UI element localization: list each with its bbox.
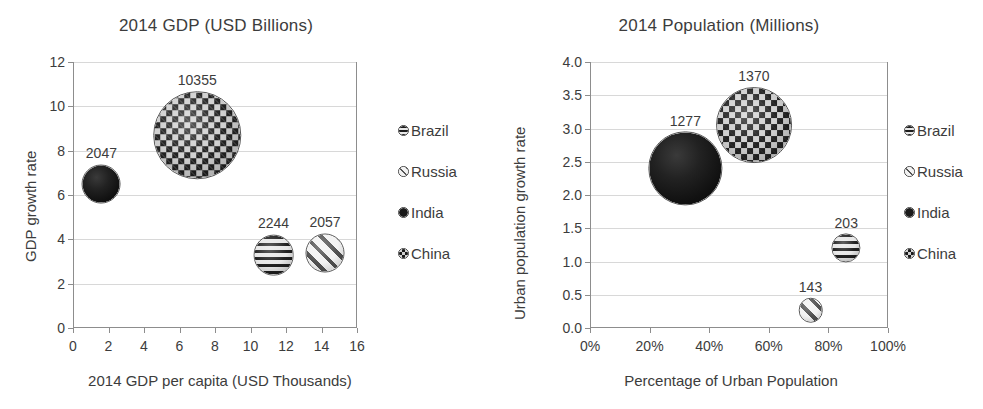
y-axis-tick-mark bbox=[68, 106, 73, 107]
legend-item-russia[interactable]: Russia bbox=[398, 163, 457, 180]
bubble-value-label-russia: 143 bbox=[799, 279, 822, 295]
y-axis-tick-mark bbox=[585, 295, 590, 296]
legend-marker-solid-icon bbox=[398, 207, 409, 218]
x-axis-tick-label: 8 bbox=[211, 338, 219, 354]
x-axis-tick-mark bbox=[73, 328, 74, 333]
x-axis-tick-label: 20% bbox=[636, 338, 664, 354]
legend-marker-hstripe-icon bbox=[398, 125, 409, 136]
bubble-russia[interactable] bbox=[306, 233, 345, 272]
bubble-charts-figure: 2014 GDP (USD Billions) 0246810120246810… bbox=[0, 0, 983, 409]
y-axis-tick-mark bbox=[585, 262, 590, 263]
x-axis-tick-label: 40% bbox=[695, 338, 723, 354]
x-axis-tick-label: 100% bbox=[870, 338, 906, 354]
x-axis-tick-mark bbox=[709, 328, 710, 333]
bubble-china[interactable] bbox=[154, 91, 242, 179]
x-axis-title: 2014 GDP per capita (USD Thousands) bbox=[0, 372, 440, 389]
y-axis-tick-label: 0.0 bbox=[491, 320, 582, 336]
legend-label: Brazil bbox=[411, 122, 449, 139]
legend-item-china[interactable]: China bbox=[398, 245, 450, 262]
y-axis-tick-label: 2 bbox=[0, 276, 65, 292]
legend-marker-solid-icon bbox=[904, 207, 915, 218]
y-axis-tick-mark bbox=[585, 228, 590, 229]
y-axis-tick-mark bbox=[585, 95, 590, 96]
y-axis-tick-label: 2.0 bbox=[491, 187, 582, 203]
legend-marker-check-icon bbox=[398, 248, 409, 259]
x-axis-tick-mark bbox=[322, 328, 323, 333]
legend-item-india[interactable]: India bbox=[398, 204, 444, 221]
gridline bbox=[591, 162, 887, 163]
legend-marker-dstripe-icon bbox=[398, 166, 409, 177]
chart-panel-gdp: 2014 GDP (USD Billions) 0246810120246810… bbox=[0, 0, 492, 409]
gridline bbox=[591, 295, 887, 296]
gridline bbox=[74, 62, 356, 63]
x-axis-tick-label: 60% bbox=[755, 338, 783, 354]
y-axis-tick-mark bbox=[68, 195, 73, 196]
y-axis-tick-label: 12 bbox=[0, 54, 65, 70]
x-axis-title: Percentage of Urban Population bbox=[511, 372, 951, 389]
legend-label: China bbox=[411, 245, 450, 262]
legend-label: China bbox=[917, 245, 956, 262]
x-axis-tick-label: 6 bbox=[176, 338, 184, 354]
chart-title-population: 2014 Population (Millions) bbox=[473, 16, 965, 36]
legend-item-china[interactable]: China bbox=[904, 245, 956, 262]
bubble-fill bbox=[650, 133, 721, 204]
y-axis-tick-label: 3.0 bbox=[491, 121, 582, 137]
bubble-russia[interactable] bbox=[798, 298, 823, 323]
bubble-china[interactable] bbox=[716, 87, 792, 163]
chart-panel-population: 2014 Population (Millions) 0.00.51.01.52… bbox=[491, 0, 983, 409]
y-axis-title: GDP growth rate bbox=[22, 151, 39, 262]
legend-label: Brazil bbox=[917, 122, 955, 139]
y-axis-tick-label: 10 bbox=[0, 98, 65, 114]
y-axis-tick-mark bbox=[68, 284, 73, 285]
y-axis-tick-label: 0 bbox=[0, 320, 65, 336]
x-axis-tick-label: 12 bbox=[278, 338, 294, 354]
legend-item-russia[interactable]: Russia bbox=[904, 163, 963, 180]
y-axis-tick-mark bbox=[585, 129, 590, 130]
x-axis-tick-mark bbox=[888, 328, 889, 333]
bubble-shading bbox=[833, 235, 860, 262]
y-axis-tick-label: 1.0 bbox=[491, 254, 582, 270]
x-axis-tick-mark bbox=[286, 328, 287, 333]
x-axis-tick-mark bbox=[650, 328, 651, 333]
chart-title-gdp: 2014 GDP (USD Billions) bbox=[0, 16, 462, 36]
x-axis-tick-label: 4 bbox=[140, 338, 148, 354]
x-axis-tick-label: 16 bbox=[349, 338, 365, 354]
bubble-brazil[interactable] bbox=[253, 234, 294, 275]
legend-label: Russia bbox=[917, 163, 963, 180]
bubble-shading bbox=[799, 299, 822, 322]
bubble-value-label-brazil: 203 bbox=[835, 215, 858, 231]
bubble-india[interactable] bbox=[649, 132, 722, 205]
gridline bbox=[74, 284, 356, 285]
bubble-fill bbox=[83, 165, 120, 202]
x-axis-tick-mark bbox=[251, 328, 252, 333]
y-axis-tick-mark bbox=[585, 195, 590, 196]
x-axis-tick-mark bbox=[769, 328, 770, 333]
gridline bbox=[591, 195, 887, 196]
y-axis-title: Urban population growth rate bbox=[511, 127, 528, 320]
legend-marker-dstripe-icon bbox=[904, 166, 915, 177]
legend-item-brazil[interactable]: Brazil bbox=[904, 122, 955, 139]
legend-label: India bbox=[411, 204, 444, 221]
y-axis-tick-label: 4.0 bbox=[491, 54, 582, 70]
y-axis-tick-label: 3.5 bbox=[491, 87, 582, 103]
x-axis-tick-mark bbox=[180, 328, 181, 333]
x-axis-tick-mark bbox=[828, 328, 829, 333]
x-axis-tick-mark bbox=[109, 328, 110, 333]
legend-marker-check-icon bbox=[904, 248, 915, 259]
y-axis-tick-mark bbox=[585, 62, 590, 63]
bubble-india[interactable] bbox=[82, 164, 121, 203]
x-axis-tick-label: 0% bbox=[580, 338, 600, 354]
bubble-value-label-china: 1370 bbox=[738, 68, 769, 84]
y-axis-tick-label: 2.5 bbox=[491, 154, 582, 170]
x-axis-tick-mark bbox=[215, 328, 216, 333]
x-axis-tick-label: 80% bbox=[814, 338, 842, 354]
legend-item-brazil[interactable]: Brazil bbox=[398, 122, 449, 139]
bubble-shading bbox=[307, 234, 344, 271]
x-axis-tick-label: 10 bbox=[243, 338, 259, 354]
y-axis-tick-mark bbox=[585, 162, 590, 163]
y-axis-tick-mark bbox=[68, 239, 73, 240]
legend-item-india[interactable]: India bbox=[904, 204, 950, 221]
x-axis-tick-mark bbox=[590, 328, 591, 333]
x-axis-tick-label: 0 bbox=[69, 338, 77, 354]
x-axis-tick-mark bbox=[144, 328, 145, 333]
